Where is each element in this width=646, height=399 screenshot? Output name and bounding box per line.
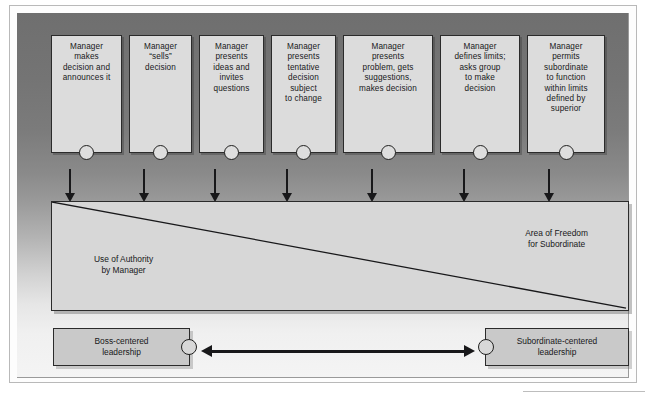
down-arrow-4 (286, 169, 288, 193)
option-box-3-label: Managerpresentsideas andinvitesquestions (200, 36, 263, 94)
boss-centered-knob[interactable] (181, 339, 197, 355)
option-box-7-label: Managerpermitssubordinateto functionwith… (528, 36, 604, 115)
option-box-2[interactable]: Manager“sells”decision (129, 35, 192, 153)
option-box-7[interactable]: Managerpermitssubordinateto functionwith… (527, 35, 605, 153)
boss-centered-box[interactable]: Boss-centeredleadership (53, 328, 190, 366)
subordinate-centered-label: Subordinate-centeredleadership (517, 336, 598, 358)
area-of-freedom-label: Area of Freedomfor Subordinate (525, 228, 588, 250)
use-of-authority-label: Use of Authorityby Manager (94, 254, 153, 276)
caption-rule (523, 391, 645, 392)
option-box-1-label: Managermakesdecision andannounces it (52, 36, 121, 84)
option-box-4-label: Managerpresentstentativedecisionsubjectt… (272, 36, 335, 104)
option-knob-5[interactable] (381, 145, 396, 160)
option-box-2-label: Manager“sells”decision (130, 36, 191, 73)
subordinate-centered-box[interactable]: Subordinate-centeredleadership (485, 328, 629, 366)
down-arrow-7 (548, 169, 550, 193)
option-knob-3[interactable] (224, 145, 239, 160)
boss-centered-label: Boss-centeredleadership (95, 336, 149, 358)
option-box-5-label: Managerpresentsproblem, getssuggestions,… (344, 36, 432, 94)
arrow-shaft (210, 350, 466, 353)
option-knob-7[interactable] (559, 145, 574, 160)
arrowhead-right-icon (464, 345, 475, 357)
option-knob-1[interactable] (79, 145, 94, 160)
option-knob-2[interactable] (153, 145, 168, 160)
option-box-3[interactable]: Managerpresentsideas andinvitesquestions (199, 35, 264, 153)
down-arrow-3 (214, 169, 216, 193)
subordinate-centered-knob[interactable] (478, 339, 494, 355)
option-box-4[interactable]: Managerpresentstentativedecisionsubjectt… (271, 35, 336, 153)
option-box-6[interactable]: Managerdefines limits;asks groupto maked… (440, 35, 520, 153)
continuum-panel: Use of Authorityby Manager Area of Freed… (51, 201, 629, 311)
option-box-5[interactable]: Managerpresentsproblem, getssuggestions,… (343, 35, 433, 153)
option-box-1[interactable]: Managermakesdecision andannounces it (51, 35, 122, 153)
down-arrow-2 (143, 169, 145, 193)
diagram-stage: Managermakesdecision andannounces it Man… (0, 0, 646, 399)
option-knob-6[interactable] (473, 145, 488, 160)
figure-panel: Managermakesdecision andannounces it Man… (17, 13, 629, 378)
option-knob-4[interactable] (296, 145, 311, 160)
options-row: Managermakesdecision andannounces it Man… (51, 35, 629, 153)
down-arrow-1 (69, 169, 71, 193)
down-arrow-5 (371, 169, 373, 193)
down-arrow-6 (463, 169, 465, 193)
option-box-6-label: Managerdefines limits;asks groupto maked… (441, 36, 519, 94)
continuum-double-arrow (201, 345, 475, 357)
